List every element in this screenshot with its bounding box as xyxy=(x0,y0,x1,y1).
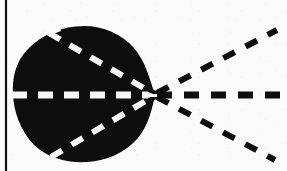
figure-canvas xyxy=(0,0,287,171)
diagram-svg xyxy=(0,0,287,171)
